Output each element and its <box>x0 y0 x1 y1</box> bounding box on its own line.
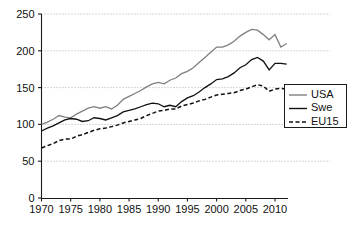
x-tick-label: 2005 <box>234 203 258 215</box>
y-tick-label: 150 <box>16 82 34 94</box>
y-tick-label: 50 <box>22 155 34 167</box>
y-tick-label: 200 <box>16 45 34 57</box>
legend: USASweEU15 <box>285 85 347 128</box>
y-tick-label: 250 <box>16 8 34 20</box>
series-line-usa <box>42 29 287 124</box>
x-tick-label: 2000 <box>204 203 228 215</box>
x-tick-label: 1990 <box>146 203 170 215</box>
line-chart: 050100150200250 197019751980198519901995… <box>0 0 355 228</box>
y-axis: 050100150200250 <box>16 8 41 204</box>
chart-page: 050100150200250 197019751980198519901995… <box>0 0 355 228</box>
legend-label-usa: USA <box>311 88 334 100</box>
legend-label-eu15: EU15 <box>311 115 339 127</box>
x-tick-label: 1980 <box>88 203 112 215</box>
x-axis: 197019751980198519901995200020052010 <box>29 198 288 215</box>
series-line-swe <box>42 57 287 131</box>
x-tick-label: 2010 <box>263 203 287 215</box>
legend-label-swe: Swe <box>311 101 332 113</box>
x-tick-label: 1970 <box>29 203 53 215</box>
x-tick-label: 1995 <box>175 203 199 215</box>
series-line-eu15 <box>42 85 287 148</box>
x-tick-label: 1975 <box>58 203 82 215</box>
y-tick-label: 100 <box>16 118 34 130</box>
x-tick-label: 1985 <box>117 203 141 215</box>
series-group <box>42 29 287 147</box>
